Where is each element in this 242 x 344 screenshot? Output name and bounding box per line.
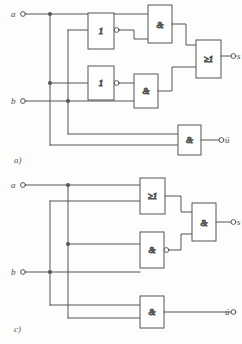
terminal-input-a[interactable] bbox=[21, 183, 26, 188]
or-gate-1-label: ≥1 bbox=[148, 191, 157, 201]
figure-a-caption: a) bbox=[14, 155, 22, 165]
input-a-label-fig-c: a bbox=[11, 180, 16, 190]
junction-b-1 bbox=[66, 99, 70, 103]
terminal-input-b[interactable] bbox=[21, 270, 26, 275]
output-s-label-fig-a: s bbox=[237, 51, 241, 61]
input-b-label-fig-c: b bbox=[11, 267, 16, 277]
not-gate-2-label: 1 bbox=[99, 78, 104, 88]
terminal-input-b[interactable] bbox=[21, 99, 26, 104]
diagram-canvas: 1 & 1 & ≥1 & bbox=[0, 0, 242, 344]
not-gate-2-bubble-icon bbox=[114, 81, 119, 86]
and-gate-2-label: & bbox=[142, 86, 149, 96]
and-gate-1-label: & bbox=[200, 218, 207, 228]
output-s-label-fig-c: s bbox=[237, 217, 241, 227]
and-gate-3-label: & bbox=[186, 135, 193, 145]
and-gate-2-label: & bbox=[148, 307, 155, 317]
and-gate-1-label: & bbox=[156, 20, 163, 30]
figure-c-caption: c) bbox=[14, 324, 21, 334]
terminal-output-s[interactable] bbox=[231, 220, 236, 225]
terminal-output-ue[interactable] bbox=[219, 138, 224, 143]
terminal-input-a[interactable] bbox=[21, 12, 26, 17]
nand-gate-1-label: & bbox=[148, 245, 155, 255]
figure-c: ≥1 & & & bbox=[21, 178, 236, 328]
junction-a-2 bbox=[66, 242, 70, 246]
junction-b-1 bbox=[48, 270, 52, 274]
input-a-label-fig-a: a bbox=[11, 9, 16, 19]
terminal-output-ue[interactable] bbox=[231, 310, 236, 315]
input-b-label-fig-a: b bbox=[11, 96, 16, 106]
figure-a: 1 & 1 & ≥1 & bbox=[21, 5, 236, 155]
output-ue-label-fig-c: ü bbox=[225, 307, 230, 317]
circuit-diagrams-svg: 1 & 1 & ≥1 & bbox=[0, 0, 242, 344]
output-ue-label-fig-a: ü bbox=[225, 135, 230, 145]
wire-not1-to-and1 bbox=[119, 30, 148, 39]
not-gate-1-label: 1 bbox=[99, 26, 104, 36]
junction-a-2 bbox=[48, 81, 52, 85]
not-gate-1-bubble-icon bbox=[114, 28, 119, 33]
junction-a-1 bbox=[48, 12, 52, 16]
terminal-output-s[interactable] bbox=[231, 54, 236, 59]
junction-a-1 bbox=[66, 183, 70, 187]
wire-and1-to-or bbox=[172, 24, 196, 45]
nand-gate-1-bubble-icon bbox=[164, 248, 169, 253]
wire-and2-to-or bbox=[158, 67, 196, 91]
wire-nand-to-and bbox=[169, 234, 192, 250]
or-gate-1-label: ≥1 bbox=[204, 54, 213, 64]
wire-or-to-and bbox=[165, 196, 192, 212]
